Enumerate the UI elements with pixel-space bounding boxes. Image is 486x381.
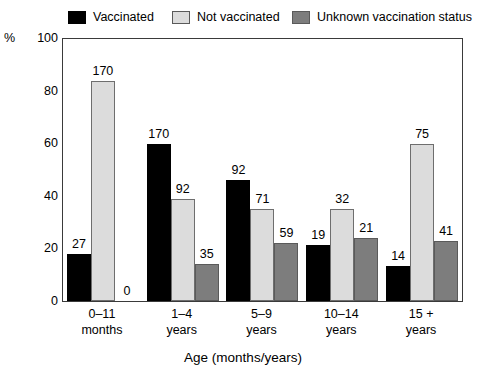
bar-2-1: [250, 209, 274, 301]
bar-1-1: [171, 199, 195, 301]
chart-legend: Vaccinated Not vaccinated Unknown vaccin…: [0, 8, 486, 28]
bar-group-3: 193221: [302, 39, 382, 301]
bar-value-label-2-0: 92: [232, 164, 246, 177]
bar-slot-0-2: 0: [115, 39, 139, 301]
bar-slot-2-0: 92: [226, 39, 250, 301]
bar-slot-1-1: 92: [171, 39, 195, 301]
y-axis-tick-labels: 020406080100: [22, 38, 58, 301]
x-axis-label-0: 0–11months: [62, 306, 142, 338]
bar-slot-2-1: 71: [250, 39, 274, 301]
legend-swatch-icon-unknown-status: [292, 11, 310, 24]
bar-slot-0-0: 27: [67, 39, 91, 301]
bar-value-label-0-2: 0: [123, 285, 130, 298]
x-axis-label-line1-0: 0–11: [62, 306, 142, 322]
bar-4-1: [410, 144, 434, 301]
legend-swatch-icon-vaccinated: [68, 11, 86, 24]
x-axis-label-line2-4: years: [381, 322, 461, 338]
chart-plot-area: 2717001709235927159193221147541: [62, 38, 463, 302]
bar-value-label-3-0: 19: [311, 229, 325, 242]
bar-0-0: [67, 254, 91, 301]
bar-slot-0-1: 170: [91, 39, 115, 301]
bar-2-2: [274, 243, 298, 301]
bar-value-label-1-0: 170: [148, 128, 169, 141]
bar-value-label-4-2: 41: [439, 225, 453, 238]
bar-0-1: [91, 81, 115, 301]
bar-value-label-1-2: 35: [200, 248, 214, 261]
legend-label-unknown-status: Unknown vaccination status: [317, 11, 472, 24]
bar-value-label-4-1: 75: [415, 128, 429, 141]
bar-4-2: [434, 241, 458, 301]
bar-slot-1-2: 35: [195, 39, 219, 301]
bar-3-1: [330, 209, 354, 301]
x-axis-label-line1-2: 5–9: [222, 306, 302, 322]
x-axis-label-2: 5–9years: [222, 306, 302, 338]
bar-group-2: 927159: [223, 39, 303, 301]
x-axis-label-line2-3: years: [301, 322, 381, 338]
y-axis-tick-60: 60: [24, 136, 58, 150]
x-axis-category-labels: 0–11months1–4years5–9years10–14years15 +…: [62, 306, 463, 342]
legend-item-vaccinated: Vaccinated: [68, 8, 154, 26]
y-axis-tick-20: 20: [24, 241, 58, 255]
bar-value-label-1-1: 92: [176, 183, 190, 196]
bar-value-label-0-0: 27: [72, 238, 86, 251]
bar-slot-4-2: 41: [434, 39, 458, 301]
bar-value-label-3-2: 21: [359, 222, 373, 235]
x-axis-title: Age (months/years): [0, 350, 486, 365]
y-axis-tick-80: 80: [24, 84, 58, 98]
bar-value-label-0-1: 170: [92, 65, 113, 78]
x-axis-label-line1-4: 15 +: [381, 306, 461, 322]
x-axis-label-1: 1–4years: [142, 306, 222, 338]
bar-value-label-2-1: 71: [256, 193, 270, 206]
x-axis-label-line1-3: 10–14: [301, 306, 381, 322]
bar-1-2: [195, 264, 219, 301]
legend-label-not-vaccinated: Not vaccinated: [197, 11, 280, 24]
legend-label-vaccinated: Vaccinated: [93, 11, 154, 24]
y-axis-tick-40: 40: [24, 189, 58, 203]
legend-item-not-vaccinated: Not vaccinated: [172, 8, 280, 26]
y-axis-tick-100: 100: [24, 31, 58, 45]
bars-container: 2717001709235927159193221147541: [63, 39, 462, 301]
bar-group-4: 147541: [382, 39, 462, 301]
x-axis-label-line2-0: months: [62, 322, 142, 338]
x-axis-label-line2-1: years: [142, 322, 222, 338]
bar-slot-3-1: 32: [330, 39, 354, 301]
legend-swatch-icon-not-vaccinated: [172, 11, 190, 24]
bar-slot-4-0: 14: [386, 39, 410, 301]
bar-3-2: [354, 238, 378, 301]
bar-2-0: [226, 180, 250, 301]
y-axis-unit-label: %: [4, 31, 15, 45]
bar-value-label-3-1: 32: [335, 193, 349, 206]
y-axis-tick-0: 0: [24, 294, 58, 308]
bar-slot-3-2: 21: [354, 39, 378, 301]
bar-slot-1-0: 170: [147, 39, 171, 301]
bar-group-1: 1709235: [143, 39, 223, 301]
bar-value-label-2-2: 59: [280, 227, 294, 240]
bar-group-0: 271700: [63, 39, 143, 301]
x-axis-label-3: 10–14years: [301, 306, 381, 338]
bar-slot-3-0: 19: [306, 39, 330, 301]
bar-4-0: [386, 266, 410, 301]
x-axis-label-4: 15 +years: [381, 306, 461, 338]
x-axis-label-line1-1: 1–4: [142, 306, 222, 322]
x-axis-label-line2-2: years: [222, 322, 302, 338]
bar-1-0: [147, 144, 171, 301]
bar-slot-2-2: 59: [274, 39, 298, 301]
bar-slot-4-1: 75: [410, 39, 434, 301]
legend-item-unknown-status: Unknown vaccination status: [292, 8, 472, 26]
bar-3-0: [306, 245, 330, 301]
bar-value-label-4-0: 14: [391, 250, 405, 263]
